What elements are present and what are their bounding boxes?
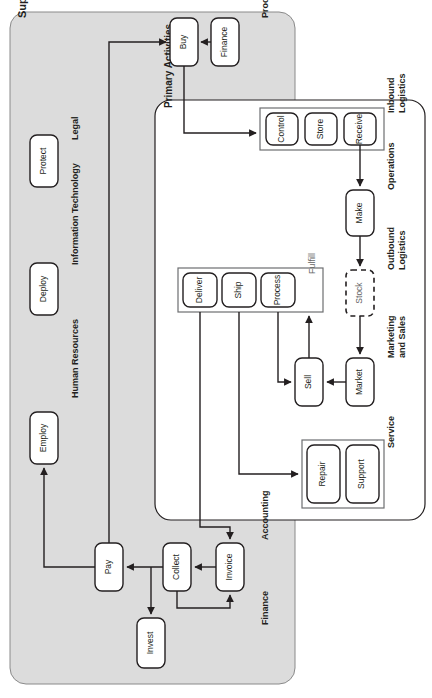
- value-chain-diagram: Support Activities Primary Activities Pr…: [0, 0, 432, 698]
- section-label-marketing-line1: Marketing: [386, 315, 396, 358]
- node-label-sell: Sell: [303, 375, 313, 389]
- section-label-finance-section: Finance: [260, 591, 270, 625]
- section-label-procurement: Procurement: [260, 0, 270, 18]
- panel-label-support-activities: Support Activities: [16, 0, 28, 18]
- section-label-human-resources: Human Resources: [70, 319, 80, 398]
- node-label-pay: Pay: [103, 559, 113, 574]
- section-label-accounting: Accounting: [260, 491, 270, 541]
- section-label-inbound-logistics-line2: Logistics: [397, 73, 407, 113]
- section-label-fulfill: Fulfill: [307, 253, 317, 274]
- node-label-deliver: Deliver: [194, 277, 204, 304]
- diagram-canvas: Support Activities Primary Activities Pr…: [0, 0, 432, 698]
- node-label-make: Make: [354, 202, 364, 223]
- node-label-employ: Employ: [38, 423, 48, 452]
- section-label-information-technology: Information Technology: [70, 163, 80, 265]
- node-label-support: Support: [356, 458, 366, 488]
- node-label-store: Store: [315, 119, 325, 140]
- node-label-finance: Finance: [219, 27, 229, 58]
- node-label-market: Market: [354, 368, 364, 395]
- node-label-deploy: Deploy: [38, 275, 48, 302]
- node-label-receive: Receive: [354, 113, 364, 144]
- node-label-process: Process: [272, 275, 282, 306]
- section-label-marketing-line2: and Sales: [397, 316, 407, 358]
- node-label-collect: Collect: [171, 553, 181, 580]
- section-label-inbound-logistics-line1: Inbound: [386, 78, 396, 114]
- node-label-ship: Ship: [233, 281, 243, 298]
- section-label-service: Service: [386, 416, 396, 448]
- section-label-legal: Legal: [70, 116, 80, 140]
- section-label-operations: Operations: [386, 142, 396, 190]
- section-label-outbound-logistics-line2: Logistics: [397, 230, 407, 270]
- section-label-outbound-logistics-line1: Outbound: [386, 227, 396, 270]
- node-label-control: Control: [276, 115, 286, 143]
- node-label-repair: Repair: [317, 461, 327, 486]
- node-label-invest: Invest: [145, 631, 155, 654]
- node-label-invoice: Invoice: [224, 553, 234, 580]
- node-label-buy: Buy: [178, 34, 188, 49]
- node-label-protect: Protect: [38, 147, 48, 175]
- node-label-stock: Stock: [354, 282, 364, 304]
